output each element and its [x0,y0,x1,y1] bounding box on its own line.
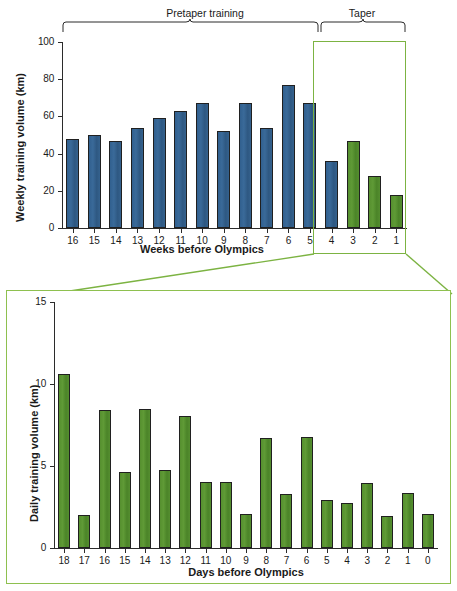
x-tick [116,229,117,233]
pretaper-bracket [62,19,320,33]
bar [321,500,333,548]
bar [119,472,131,548]
y-tick-label: 10 [14,378,46,389]
bar [200,482,212,548]
bar [174,111,187,228]
x-tick [84,549,85,553]
y-tick [50,466,54,467]
x-tick [327,549,328,553]
y-tick [58,42,62,43]
x-tick [367,549,368,553]
x-tick [286,549,287,553]
y-tick-label: 40 [22,148,54,159]
bar [239,103,252,228]
daily-x-axis-title: Days before Olympics [54,566,438,578]
pretaper-bracket-label: Pretaper training [95,7,315,19]
y-tick-label: 0 [22,222,54,233]
weekly-training-chart: Pretaper training Taper Weekly training … [0,0,457,258]
x-tick [428,549,429,553]
x-tick [137,229,138,233]
figure-root: Pretaper training Taper Weekly training … [0,0,457,591]
x-tick [387,549,388,553]
bar [240,514,252,548]
daily-training-chart: Daily training volume (km) 051015 181716… [6,290,451,584]
x-tick [206,549,207,553]
bar [131,128,144,228]
y-tick [58,154,62,155]
bar [196,103,209,228]
y-tick-label: 60 [22,110,54,121]
bar [260,128,273,228]
x-tick [347,549,348,553]
y-tick-label: 100 [22,36,54,47]
x-tick [267,229,268,233]
bar [179,416,191,548]
x-tick [310,229,311,233]
bar [220,482,232,548]
x-tick [288,229,289,233]
bar [361,483,373,548]
y-tick-label: 0 [14,542,46,553]
x-tick [105,549,106,553]
x-tick [64,549,65,553]
taper-highlight-box [313,41,406,254]
x-tick [94,229,95,233]
bar [66,139,79,228]
bar [260,438,272,548]
bar [78,515,90,548]
x-tick [226,549,227,553]
weekly-y-axis [62,42,63,229]
bar [402,493,414,548]
bar [153,118,166,228]
x-tick [202,229,203,233]
y-tick [58,191,62,192]
bar [280,494,292,548]
x-tick [185,549,186,553]
bar [422,514,434,548]
x-tick [245,229,246,233]
x-tick [165,549,166,553]
bar [159,470,171,548]
y-tick [50,384,54,385]
y-tick [50,302,54,303]
bar [282,85,295,228]
bar [217,131,230,228]
daily-y-axis-title: Daily training volume (km) [28,384,40,522]
bar [88,135,101,228]
y-tick-label: 5 [14,460,46,471]
x-tick [125,549,126,553]
x-tick [73,229,74,233]
bar [341,503,353,548]
bar [99,410,111,548]
y-tick-label: 15 [14,296,46,307]
x-tick [246,549,247,553]
y-tick [58,79,62,80]
bar [139,409,151,548]
x-tick [307,549,308,553]
y-tick [50,548,54,549]
x-tick [181,229,182,233]
bar [381,516,393,548]
taper-bracket-label: Taper [332,7,392,19]
x-tick-label: 0 [416,555,440,566]
taper-bracket [320,19,406,33]
y-tick [58,228,62,229]
x-tick [408,549,409,553]
bar [301,437,313,548]
x-tick [266,549,267,553]
y-tick-label: 20 [22,185,54,196]
x-tick [145,549,146,553]
daily-y-axis [54,302,55,549]
bar [109,141,122,228]
bar [58,374,70,548]
y-tick [58,116,62,117]
daily-plot-area [54,302,438,548]
x-tick [224,229,225,233]
x-tick [159,229,160,233]
y-tick-label: 80 [22,73,54,84]
